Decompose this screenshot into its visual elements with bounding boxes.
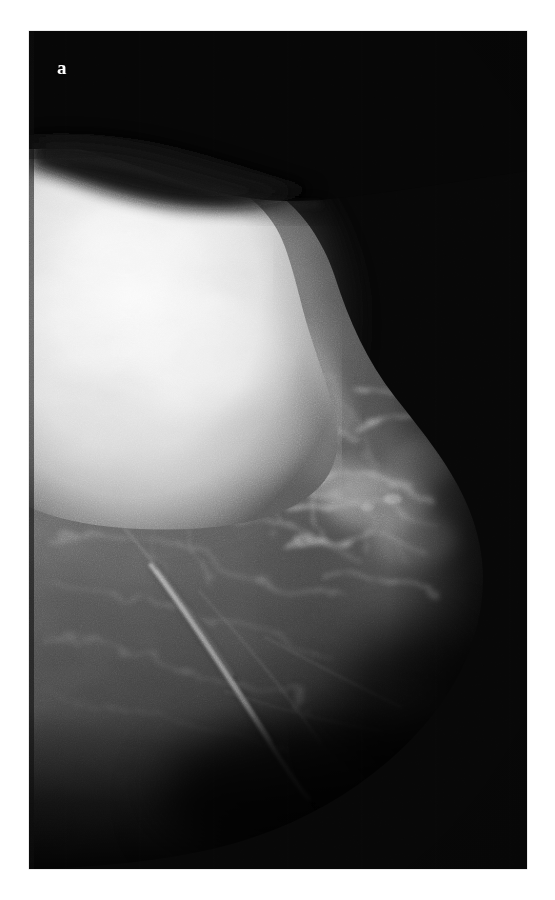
figure-panel: a: [0, 0, 555, 900]
mammogram-scan-frame: a: [29, 31, 527, 869]
mammogram-image: [29, 31, 527, 869]
panel-label: a: [57, 58, 67, 77]
